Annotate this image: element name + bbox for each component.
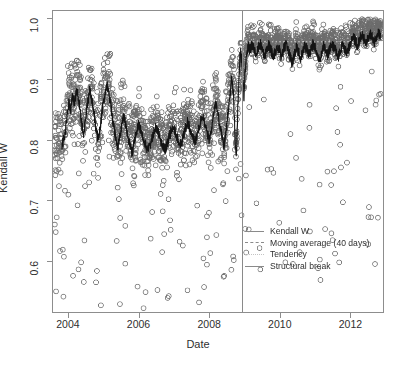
x-tick-label: 2008 <box>197 318 220 330</box>
x-tick-label: 2012 <box>339 318 362 330</box>
kendall-w-scatter-figure: 200420062008201020120.60.70.80.91.0 Kend… <box>0 0 396 365</box>
chart-legend: Kendall WMoving average (40 days)Tendenc… <box>245 226 369 272</box>
y-tick-mark <box>47 79 52 80</box>
y-tick-label: 0.9 <box>28 79 40 94</box>
legend-label: Structural break <box>270 261 331 273</box>
x-axis-title: Date <box>0 338 396 350</box>
y-tick-mark <box>47 140 52 141</box>
y-axis-title: Kendall W <box>0 143 9 193</box>
legend-label: Moving average (40 days) <box>270 238 369 250</box>
legend-label: Kendall W <box>270 226 309 238</box>
legend-item-0: Kendall W <box>245 226 369 238</box>
y-tick-mark <box>47 200 52 201</box>
y-tick-label: 0.7 <box>28 200 40 215</box>
legend-label: Tendency <box>270 249 307 261</box>
x-tick-label: 2004 <box>56 318 79 330</box>
x-tick-label: 2010 <box>268 318 291 330</box>
y-tick-mark <box>47 18 52 19</box>
x-tick-label: 2006 <box>127 318 150 330</box>
legend-item-2: Tendency <box>245 249 369 261</box>
legend-item-3: Structural break <box>245 261 369 273</box>
y-tick-label: 0.8 <box>28 140 40 155</box>
y-tick-mark <box>47 261 52 262</box>
y-tick-label: 1.0 <box>28 18 40 33</box>
legend-item-1: Moving average (40 days) <box>245 238 369 250</box>
y-tick-label: 0.6 <box>28 261 40 276</box>
